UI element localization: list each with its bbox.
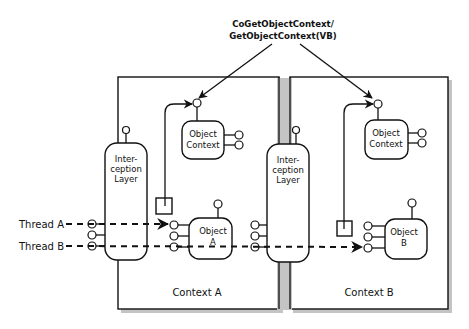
svg-text:Inter-: Inter- (115, 154, 137, 164)
object-b-lollipop-icon (408, 199, 416, 207)
interception-b-lollipop-icon (293, 127, 300, 134)
svg-text:Object: Object (199, 226, 227, 236)
svg-text:Layer: Layer (276, 175, 300, 185)
interception-layer-a: Inter- ception Layer (88, 127, 147, 261)
interception-b-port-icon (251, 221, 259, 229)
object-context-b-port-icon (418, 129, 426, 137)
context-a-label: Context A (172, 287, 221, 298)
object-b-port-icon (364, 222, 372, 230)
context-b-box (290, 77, 448, 309)
interception-a-lollipop-icon (123, 127, 130, 134)
svg-text:Context: Context (186, 140, 220, 150)
svg-text:B: B (401, 238, 407, 248)
svg-text:Object: Object (189, 129, 217, 139)
svg-text:Inter-: Inter- (277, 155, 299, 165)
svg-text:ception: ception (272, 165, 304, 175)
api-label-line2: GetObjectContext(VB) (229, 31, 336, 41)
thread-b-label: Thread B (18, 241, 64, 252)
caller-a-square (156, 198, 172, 214)
context-b-label: Context B (344, 287, 393, 298)
object-context-a-lollipop-icon (193, 99, 201, 107)
object-context-b-port-icon (418, 139, 426, 147)
object-a-port-icon (170, 221, 178, 229)
com-context-diagram: Context A Context B CoGetObjectContext/ … (0, 0, 469, 329)
svg-text:Object: Object (390, 227, 418, 237)
context-b: Context B (290, 77, 452, 313)
interception-b-port-icon (251, 232, 259, 240)
svg-text:Layer: Layer (114, 174, 138, 184)
svg-text:Object: Object (372, 128, 400, 138)
object-a-lollipop-icon (214, 200, 222, 208)
object-context-a-port-icon (235, 131, 243, 139)
interception-a-port-icon (88, 231, 96, 239)
svg-text:ception: ception (110, 164, 142, 174)
object-context-b-lollipop-icon (374, 100, 382, 108)
api-label-line1: CoGetObjectContext/ (232, 19, 335, 29)
object-b-port-icon (364, 244, 372, 252)
object-context-a-port-icon (235, 141, 243, 149)
object-b-port-icon (364, 233, 372, 241)
svg-text:Context: Context (369, 139, 403, 149)
object-a-port-icon (170, 232, 178, 240)
thread-a-label: Thread A (18, 219, 64, 230)
